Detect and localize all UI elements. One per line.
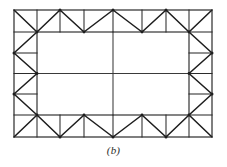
bottom-node-1 xyxy=(59,136,62,139)
bottom-node-4 xyxy=(83,114,86,117)
bottom-node-2 xyxy=(112,136,115,139)
right-diag-4 xyxy=(189,94,212,115)
top-diag-1 xyxy=(37,10,60,32)
top-diag-4 xyxy=(113,10,142,32)
left-node-2 xyxy=(13,93,16,96)
bottom-corner-diag-right xyxy=(189,115,212,137)
top-truss xyxy=(14,9,212,34)
right-node-1 xyxy=(211,52,214,55)
right-truss xyxy=(188,32,214,115)
top-node-5 xyxy=(141,31,144,34)
top-corner-diag-left xyxy=(14,10,37,32)
bottom-node-3 xyxy=(165,136,168,139)
left-diag-2 xyxy=(14,53,37,74)
left-diag-3 xyxy=(14,74,37,95)
top-corner-diag-right xyxy=(189,10,212,32)
right-diag-3 xyxy=(189,74,212,95)
figure-caption: (b) xyxy=(0,143,227,157)
figure-container: (b) xyxy=(0,0,227,167)
truss-diagram xyxy=(0,0,227,167)
top-diag-2 xyxy=(60,10,84,32)
right-diag-1 xyxy=(189,32,212,53)
left-node-3 xyxy=(36,72,39,75)
interior-beams-group xyxy=(37,32,189,115)
top-node-2 xyxy=(112,9,115,12)
bottom-truss xyxy=(14,114,212,139)
bottom-corner-diag-left xyxy=(14,115,37,137)
left-diag-1 xyxy=(14,32,37,53)
top-node-3 xyxy=(165,9,168,12)
top-diag-3 xyxy=(84,10,113,32)
left-diag-4 xyxy=(14,94,37,115)
bottom-diag-4 xyxy=(113,115,142,137)
top-diag-6 xyxy=(166,10,189,32)
top-node-1 xyxy=(59,9,62,12)
top-diag-5 xyxy=(142,10,166,32)
left-truss xyxy=(13,32,39,115)
top-node-4 xyxy=(83,31,86,34)
bottom-diag-3 xyxy=(84,115,113,137)
right-diag-2 xyxy=(189,53,212,74)
right-node-3 xyxy=(188,72,191,75)
left-node-1 xyxy=(13,52,16,55)
bottom-diag-6 xyxy=(166,115,189,137)
bottom-diag-5 xyxy=(142,115,166,137)
bottom-diag-1 xyxy=(37,115,60,137)
bottom-diag-2 xyxy=(60,115,84,137)
right-node-2 xyxy=(211,93,214,96)
bottom-node-5 xyxy=(141,114,144,117)
